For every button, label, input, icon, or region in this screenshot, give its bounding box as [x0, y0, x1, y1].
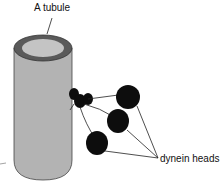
- margin-tick: [0, 163, 6, 164]
- dynein-head-1: [116, 85, 140, 109]
- dynein-head-3: [86, 131, 108, 155]
- a-tubule-cylinder: [14, 35, 72, 180]
- dynein-diagram: A tubule dynein heads: [0, 0, 221, 192]
- dynein-heads-label: dynein heads: [160, 154, 220, 164]
- dynein-head-2: [107, 109, 129, 133]
- a-tubule-label: A tubule: [34, 3, 70, 13]
- tubule-leader-line: [47, 18, 52, 34]
